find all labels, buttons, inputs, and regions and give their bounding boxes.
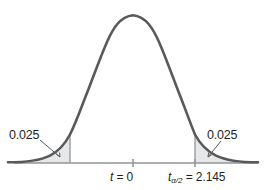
- critical-axis-label-value: = 2.145: [182, 170, 225, 184]
- center-axis-label: t = 0: [110, 171, 133, 183]
- critical-axis-label: tα/2 = 2.145: [168, 171, 225, 183]
- center-axis-label-value: = 0: [113, 170, 133, 184]
- right-tail-area-label: 0.025: [207, 129, 237, 142]
- distribution-plot: [0, 0, 264, 190]
- t-distribution-figure: 0.025 0.025 t = 0 tα/2 = 2.145: [0, 0, 264, 190]
- left-tail-area-label: 0.025: [9, 129, 39, 142]
- critical-axis-label-subscript: α/2: [171, 176, 182, 185]
